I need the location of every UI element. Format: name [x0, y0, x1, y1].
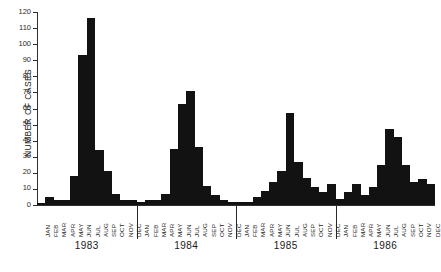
y-tick-label-100: 100 — [18, 39, 31, 49]
bar — [427, 184, 436, 205]
y-tick-label-50: 50 — [23, 119, 31, 129]
month-label-1985-may: MAY — [276, 223, 283, 237]
month-label-1983-sep: SEP — [110, 224, 117, 237]
y-tick-label-70: 70 — [23, 87, 31, 97]
month-label-1986-jun: JUN — [384, 224, 391, 237]
bar-chart: NUMBER OF CASES 010203040506070809010011… — [0, 0, 441, 272]
month-label-1984-jun: JUN — [185, 224, 192, 237]
month-label-1984-sep: SEP — [210, 224, 217, 237]
month-label-1986-may: MAY — [375, 223, 382, 237]
month-label-1985-mar: MAR — [259, 223, 266, 237]
y-tick-label-20: 20 — [23, 167, 31, 177]
month-label-1985-apr: APR — [268, 224, 275, 237]
x-axis-month-labels: JANFEBMARAPRMAYJUNJULAUGSEPOCTNOVDECJANF… — [37, 207, 435, 239]
y-tick-label-40: 40 — [23, 135, 31, 145]
y-tick-label-90: 90 — [23, 55, 31, 65]
y-tick-0: 0 — [33, 205, 37, 206]
y-tick-label-30: 30 — [23, 151, 31, 161]
month-label-1985-jun: JUN — [284, 224, 291, 237]
month-label-1985-aug: AUG — [301, 223, 308, 237]
month-label-1985-nov: NOV — [326, 223, 333, 237]
month-label-1986-nov: NOV — [425, 223, 432, 237]
year-label-1985: 1985 — [236, 240, 336, 251]
y-tick-110: 110 — [33, 28, 37, 29]
month-label-1984-may: MAY — [176, 223, 183, 237]
month-label-1983-feb: FEB — [52, 224, 59, 237]
month-label-1984-mar: MAR — [160, 223, 167, 237]
month-label-1983-jul: JUL — [94, 225, 101, 237]
y-tick-100: 100 — [33, 44, 37, 45]
y-tick-70: 70 — [33, 92, 37, 93]
month-label-1984-feb: FEB — [152, 224, 159, 237]
month-label-1984-apr: APR — [168, 224, 175, 237]
y-tick-label-10: 10 — [23, 183, 31, 193]
y-tick-90: 90 — [33, 60, 37, 61]
y-tick-60: 60 — [33, 109, 37, 110]
y-tick-label-60: 60 — [23, 103, 31, 113]
month-label-1985-feb: FEB — [251, 224, 258, 237]
month-label-1986-dec: DEC — [434, 223, 441, 237]
y-tick-40: 40 — [33, 141, 37, 142]
y-tick-label-120: 120 — [18, 7, 31, 17]
month-label-1986-aug: AUG — [400, 223, 407, 237]
month-label-1986-feb: FEB — [351, 224, 358, 237]
month-label-1983-aug: AUG — [102, 223, 109, 237]
x-axis-year-labels: 1983198419851986 — [37, 240, 435, 254]
month-label-1984-jan: JAN — [143, 225, 150, 237]
month-label-1983-nov: NOV — [127, 223, 134, 237]
year-label-1986: 1986 — [336, 240, 436, 251]
month-label-1983-may: MAY — [77, 223, 84, 237]
month-label-1986-oct: OCT — [417, 223, 424, 237]
y-axis-line — [37, 12, 38, 205]
month-label-1984-jul: JUL — [193, 225, 200, 237]
month-label-1986-mar: MAR — [359, 223, 366, 237]
month-label-1983-jun: JUN — [85, 224, 92, 237]
month-label-1984-nov: NOV — [226, 223, 233, 237]
y-tick-80: 80 — [33, 76, 37, 77]
year-label-1983: 1983 — [37, 240, 137, 251]
plot-area: 0102030405060708090100110120 — [37, 12, 435, 205]
month-label-1986-jul: JUL — [392, 225, 399, 237]
month-label-1985-jul: JUL — [293, 225, 300, 237]
month-label-1986-sep: SEP — [409, 224, 416, 237]
month-label-1985-dec: DEC — [334, 223, 341, 237]
y-tick-20: 20 — [33, 173, 37, 174]
month-label-1986-apr: APR — [367, 224, 374, 237]
month-label-1983-mar: MAR — [60, 223, 67, 237]
y-tick-label-80: 80 — [23, 71, 31, 81]
y-tick-10: 10 — [33, 189, 37, 190]
y-tick-50: 50 — [33, 125, 37, 126]
month-label-1984-aug: AUG — [201, 223, 208, 237]
y-tick-label-110: 110 — [19, 23, 31, 33]
y-tick-30: 30 — [33, 157, 37, 158]
month-label-1986-jan: JAN — [342, 225, 349, 237]
month-label-1984-dec: DEC — [235, 223, 242, 237]
month-label-1985-jan: JAN — [243, 225, 250, 237]
month-label-1983-oct: OCT — [118, 223, 125, 237]
month-label-1985-oct: OCT — [317, 223, 324, 237]
y-tick-label-0: 0 — [27, 200, 31, 210]
month-label-1983-jan: JAN — [44, 225, 51, 237]
year-label-1984: 1984 — [137, 240, 237, 251]
month-label-1983-apr: APR — [69, 224, 76, 237]
month-label-1983-dec: DEC — [135, 223, 142, 237]
month-label-1984-oct: OCT — [218, 223, 225, 237]
y-tick-120: 120 — [33, 12, 37, 13]
month-label-1985-sep: SEP — [309, 224, 316, 237]
